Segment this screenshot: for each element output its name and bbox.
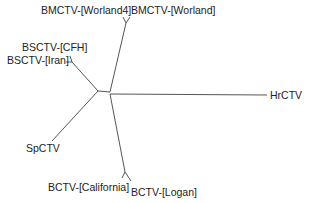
- label-spctv: SpCTV: [26, 142, 60, 154]
- label-hrctv: HrCTV: [270, 89, 302, 101]
- label-bmctv-worland: BMCTV-[Worland]: [131, 4, 215, 16]
- tree-branches: [0, 0, 309, 203]
- phylogenetic-tree: BMCTV-[Worland4] BMCTV-[Worland] BSCTV-[…: [0, 0, 309, 203]
- label-bmctv-worland4: BMCTV-[Worland4]: [41, 4, 131, 16]
- label-bctv-california: BCTV-[California]: [48, 181, 129, 193]
- label-bsctv-cfh: BSCTV-[CFH]: [22, 41, 87, 53]
- label-bctv-logan: BCTV-[Logan]: [131, 186, 197, 198]
- label-bsctv-iran: BSCTV-[Iran]: [7, 54, 69, 66]
